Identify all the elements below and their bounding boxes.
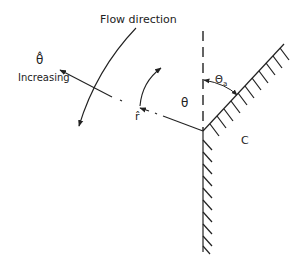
vertical-wall	[203, 131, 212, 254]
theta-arc-arrow	[140, 68, 161, 106]
flow-direction-label: Flow direction	[100, 14, 177, 25]
region-c-label: C	[241, 135, 249, 146]
theta-hat-label: θ̂	[36, 54, 43, 66]
theta-a-label: Θa	[215, 75, 227, 88]
theta-label: θ	[181, 97, 188, 109]
increasing-label: Increasing	[18, 73, 70, 83]
theta-a-subscript: a	[223, 80, 227, 88]
flow-direction-arrow	[79, 28, 136, 126]
corner-flow-diagram	[0, 0, 306, 265]
theta-a-symbol: Θ	[215, 74, 223, 85]
inclined-wall	[203, 44, 289, 136]
r-hat-label: r̂	[135, 111, 140, 122]
